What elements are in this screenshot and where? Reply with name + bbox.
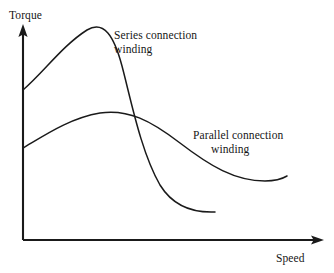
annotation-parallel-line-1: Parallel connection xyxy=(193,129,283,141)
annotation-parallel-connection-winding: Parallel connection winding xyxy=(193,129,283,156)
torque-speed-figure: Torque Speed Series connection winding P… xyxy=(0,0,334,273)
annotation-series-line-2: winding xyxy=(114,43,197,57)
x-axis-label: Speed xyxy=(276,252,305,266)
y-axis-label: Torque xyxy=(9,9,42,23)
annotation-parallel-line-2: winding xyxy=(193,143,283,157)
annotation-series-connection-winding: Series connection winding xyxy=(114,29,197,56)
annotation-series-line-1: Series connection xyxy=(114,29,197,41)
